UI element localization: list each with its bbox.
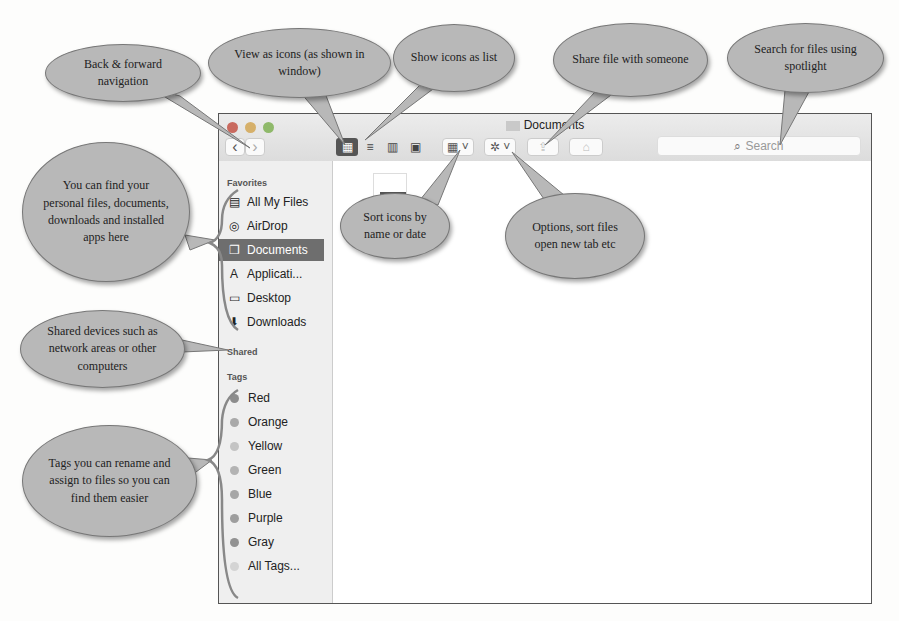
callout-options: Options, sort files open new tab etc xyxy=(505,193,645,279)
tag-label: Green xyxy=(248,463,281,477)
sidebar-item-label: Downloads xyxy=(247,315,306,329)
callout-share: Share file with someone xyxy=(553,23,708,97)
callout-text: You can find your personal files, docume… xyxy=(41,177,171,247)
tag-dot-icon xyxy=(230,394,239,403)
view-as-list-button[interactable]: ≡ xyxy=(359,138,381,156)
callout-text: Tags you can rename and assign to files … xyxy=(43,455,176,507)
gear-icon: ✲ ˅ xyxy=(490,140,510,154)
window-title: Documents xyxy=(219,118,871,132)
share-icon: ⇪ xyxy=(538,140,548,154)
chevron-right-icon: › xyxy=(252,138,257,156)
tag-dot-icon xyxy=(230,466,239,475)
callout-tags: Tags you can rename and assign to files … xyxy=(22,425,197,537)
sidebar-tag-all[interactable]: All Tags... xyxy=(227,555,332,577)
all-files-icon: ▤ xyxy=(227,195,241,209)
sidebar-tag-purple[interactable]: Purple xyxy=(227,507,332,529)
callout-view-icons: View as icons (as shown in window) xyxy=(208,28,391,98)
tag-dot-icon xyxy=(230,514,239,523)
callout-favorites: You can find your personal files, docume… xyxy=(22,142,190,282)
tag-dot-icon xyxy=(230,490,239,499)
sidebar-tag-yellow[interactable]: Yellow xyxy=(227,435,332,457)
list-icon: ≡ xyxy=(366,140,373,154)
sidebar-item-desktop[interactable]: ▭Desktop xyxy=(227,287,332,309)
sidebar-tag-red[interactable]: Red xyxy=(227,387,332,409)
edit-tags-button[interactable]: ⌂ xyxy=(569,138,603,156)
tag-dot-icon xyxy=(230,562,239,571)
coverflow-icon: ▣ xyxy=(410,140,421,154)
callout-text: View as icons (as shown in window) xyxy=(223,46,376,81)
sidebar-item-label: Documents xyxy=(247,243,308,257)
window-title-text: Documents xyxy=(524,118,585,132)
callout-text: Share file with someone xyxy=(572,51,688,68)
tag-icon: ⌂ xyxy=(582,140,589,154)
search-icon: ⌕ xyxy=(734,139,741,153)
downloads-icon: ⬇ xyxy=(227,315,241,329)
sidebar-item-label: All My Files xyxy=(247,195,308,209)
tags-header: Tags xyxy=(227,372,247,382)
search-placeholder: Search xyxy=(745,139,783,153)
sidebar-item-downloads[interactable]: ⬇Downloads xyxy=(227,311,332,333)
callout-text: Shared devices such as network areas or … xyxy=(35,323,170,375)
sidebar-item-documents[interactable]: ❐Documents xyxy=(219,239,324,261)
grid-icon: ▦ xyxy=(342,140,353,154)
sidebar-item-applications[interactable]: AApplicati... xyxy=(227,263,332,285)
sidebar-tag-gray[interactable]: Gray xyxy=(227,531,332,553)
applications-icon: A xyxy=(227,267,241,281)
sidebar-item-all-my-files[interactable]: ▤All My Files xyxy=(227,191,332,213)
callout-back-forward: Back & forward navigation xyxy=(45,44,201,102)
tag-label: Purple xyxy=(248,511,283,525)
tag-label: Yellow xyxy=(248,439,282,453)
sidebar-tag-orange[interactable]: Orange xyxy=(227,411,332,433)
callout-text: Show icons as list xyxy=(411,49,497,66)
arrange-icon: ▦ ˅ xyxy=(447,140,468,154)
sidebar-tag-green[interactable]: Green xyxy=(227,459,332,481)
airdrop-icon: ◎ xyxy=(227,219,241,233)
tag-label: Orange xyxy=(248,415,288,429)
folder-icon xyxy=(506,121,520,131)
callout-search: Search for files using spotlight xyxy=(727,23,884,93)
action-button[interactable]: ✲ ˅ xyxy=(484,138,516,156)
chevron-left-icon: ‹ xyxy=(232,138,237,156)
sidebar-item-label: Desktop xyxy=(247,291,291,305)
tag-label: Gray xyxy=(248,535,274,549)
view-as-coverflow-button[interactable]: ▣ xyxy=(404,138,426,156)
callout-text: Search for files using spotlight xyxy=(742,41,869,76)
back-button[interactable]: ‹ xyxy=(225,138,245,156)
favorites-header: Favorites xyxy=(227,178,267,188)
sidebar-item-label: AirDrop xyxy=(247,219,288,233)
share-button[interactable]: ⇪ xyxy=(527,138,559,156)
view-as-columns-button[interactable]: ▥ xyxy=(381,138,403,156)
shared-header: Shared xyxy=(227,347,258,357)
tag-label: All Tags... xyxy=(248,559,300,573)
toolbar: Documents ‹ › ▦ ≡ ▥ ▣ ▦ ˅ ✲ ˅ ⇪ ⌂ ⌕ Sear… xyxy=(219,114,871,162)
tag-dot-icon xyxy=(230,418,239,427)
callout-show-list: Show icons as list xyxy=(393,24,515,92)
sidebar-item-label: Applicati... xyxy=(247,267,302,281)
callout-text: Back & forward navigation xyxy=(60,56,186,91)
sidebar: Favorites ▤All My Files ◎AirDrop ❐Docume… xyxy=(219,161,333,603)
tag-dot-icon xyxy=(230,538,239,547)
sidebar-item-airdrop[interactable]: ◎AirDrop xyxy=(227,215,332,237)
callout-sort: Sort icons by name or date xyxy=(340,193,450,259)
tag-dot-icon xyxy=(230,442,239,451)
arrange-button[interactable]: ▦ ˅ xyxy=(442,138,474,156)
search-input[interactable]: ⌕ Search xyxy=(657,136,861,156)
callout-shared: Shared devices such as network areas or … xyxy=(20,310,185,388)
documents-icon: ❐ xyxy=(227,243,241,257)
view-as-icons-button[interactable]: ▦ xyxy=(336,138,358,156)
tag-label: Red xyxy=(248,391,270,405)
desktop-icon: ▭ xyxy=(227,291,241,305)
tag-label: Blue xyxy=(248,487,272,501)
callout-text: Options, sort files open new tab etc xyxy=(530,219,620,254)
sidebar-tag-blue[interactable]: Blue xyxy=(227,483,332,505)
finder-window: Documents ‹ › ▦ ≡ ▥ ▣ ▦ ˅ ✲ ˅ ⇪ ⌂ ⌕ Sear… xyxy=(218,113,872,604)
callout-text: Sort icons by name or date xyxy=(355,209,435,244)
forward-button[interactable]: › xyxy=(245,138,265,156)
columns-icon: ▥ xyxy=(387,140,398,154)
